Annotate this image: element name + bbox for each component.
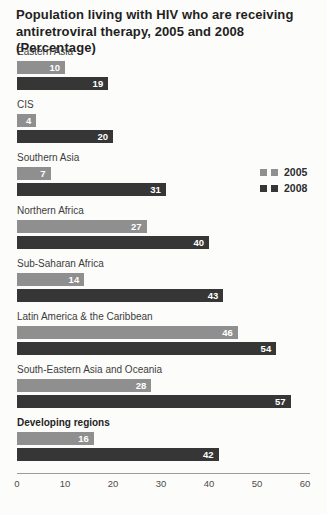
value-label: 10: [49, 61, 65, 74]
value-label: 20: [97, 130, 113, 143]
bar-group: CIS420: [17, 99, 291, 143]
category-label: CIS: [17, 99, 291, 111]
x-axis: 0102030405060: [17, 473, 310, 488]
category-label: Sub-Saharan Africa: [17, 258, 291, 270]
value-label: 43: [208, 289, 224, 302]
bar-2005: 14: [17, 273, 84, 286]
bar-group: Eastern Asia1019: [17, 46, 291, 90]
bar-groups: Eastern Asia1019CIS420Southern Asia731No…: [17, 46, 291, 470]
bar-group: Latin America & the Caribbean4654: [17, 311, 291, 355]
value-label: 28: [136, 379, 152, 392]
bar-2008: 19: [17, 77, 108, 90]
value-label: 40: [193, 236, 209, 249]
bar-2008: 43: [17, 289, 223, 302]
value-label: 4: [26, 114, 36, 127]
bar-2005: 10: [17, 61, 65, 74]
bar-2005: 27: [17, 220, 147, 233]
x-tick-label: 30: [156, 478, 167, 489]
category-label: Developing regions: [17, 417, 291, 429]
value-label: 14: [69, 273, 85, 286]
bar-group: Sub-Saharan Africa1443: [17, 258, 291, 302]
value-label: 27: [131, 220, 147, 233]
bar-2005: 28: [17, 379, 151, 392]
x-tick-label: 50: [252, 478, 263, 489]
value-label: 7: [40, 167, 50, 180]
chart-page: Population living with HIV who are recei…: [0, 0, 327, 515]
category-label: Northern Africa: [17, 205, 291, 217]
category-label: Eastern Asia: [17, 46, 291, 58]
value-label: 16: [78, 432, 94, 445]
bar-2005: 46: [17, 326, 238, 339]
bar-group: Southern Asia731: [17, 152, 291, 196]
bar-2008: 31: [17, 183, 166, 196]
value-label: 57: [275, 395, 291, 408]
bar-2005: 7: [17, 167, 51, 180]
category-label: Latin America & the Caribbean: [17, 311, 291, 323]
x-tick-label: 0: [14, 478, 19, 489]
value-label: 42: [203, 448, 219, 461]
bar-2008: 20: [17, 130, 113, 143]
bar-2008: 54: [17, 342, 276, 355]
value-label: 19: [93, 77, 109, 90]
bar-2008: 40: [17, 236, 209, 249]
x-tick-label: 40: [204, 478, 215, 489]
x-axis-ticks: 0102030405060: [17, 474, 310, 488]
bar-group: Developing regions1642: [17, 417, 291, 461]
bar-2008: 42: [17, 448, 219, 461]
bar-2005: 16: [17, 432, 94, 445]
value-label: 46: [222, 326, 238, 339]
bar-group: South-Eastern Asia and Oceania2857: [17, 364, 291, 408]
x-tick-label: 60: [300, 478, 311, 489]
value-label: 31: [150, 183, 166, 196]
bar-2005: 4: [17, 114, 36, 127]
bar-group: Northern Africa2740: [17, 205, 291, 249]
value-label: 54: [261, 342, 277, 355]
x-tick-label: 10: [60, 478, 71, 489]
category-label: Southern Asia: [17, 152, 291, 164]
category-label: South-Eastern Asia and Oceania: [17, 364, 291, 376]
x-tick-label: 20: [108, 478, 119, 489]
bar-2008: 57: [17, 395, 291, 408]
